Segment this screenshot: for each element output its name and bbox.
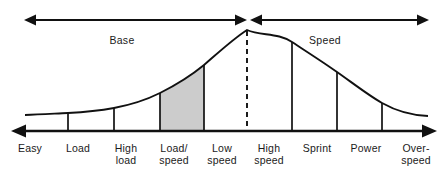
training-distribution-figure: Base Speed Easy Load [0, 0, 448, 180]
zone-dividers [68, 42, 382, 131]
highlight-band-load-speed [160, 65, 204, 131]
axis-label-low-speed-line1: Low [212, 142, 232, 154]
speed-arrow-head-right [417, 15, 429, 26]
phase-label-base: Base [109, 34, 134, 46]
base-arrow-head-left [24, 15, 36, 26]
phase-label-speed: Speed [309, 34, 341, 46]
axis-arrow-head-right [422, 125, 437, 138]
baseline-axis [11, 125, 437, 138]
chart-canvas: Base Speed Easy Load [0, 0, 448, 180]
axis-label-power-line1: Power [351, 142, 382, 154]
axis-category-labels: Easy Load High load Load/ speed Low spee… [18, 142, 431, 166]
axis-label-over-speed-line1: Over- [402, 142, 430, 154]
axis-label-load-speed-line2: speed [159, 154, 189, 166]
axis-label-load-speed-line1: Load/ [160, 142, 187, 154]
axis-label-sprint-line1: Sprint [303, 142, 332, 154]
speed-arrow-head-left [250, 15, 262, 26]
axis-label-over-speed-line2: speed [401, 154, 431, 166]
axis-label-load-line1: Load [66, 142, 90, 154]
axis-arrow-head-left [11, 125, 26, 138]
axis-label-easy-line1: Easy [18, 142, 43, 154]
axis-label-high-speed-line2: speed [254, 154, 284, 166]
distribution-curve [25, 30, 428, 116]
phase-arrow-speed [250, 15, 429, 26]
axis-label-high-load-line1: High [115, 142, 137, 154]
axis-label-high-speed-line1: High [258, 142, 280, 154]
phase-arrow-base [24, 15, 247, 26]
axis-label-low-speed-line2: speed [207, 154, 237, 166]
base-arrow-head-right [235, 15, 247, 26]
axis-label-high-load-line2: load [116, 154, 137, 166]
